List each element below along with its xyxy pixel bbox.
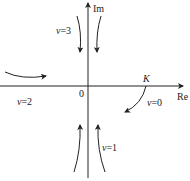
complex-plane-diagram: Im Re 0 K v=3 v=2 v=1 v=0 — [0, 0, 190, 181]
branch-v1-label: v=1 — [102, 143, 117, 153]
origin-label: 0 — [79, 89, 84, 99]
branch-v3-label: v=3 — [56, 26, 71, 36]
real-axis-label: Re — [177, 92, 188, 102]
point-k-label: K — [143, 74, 150, 84]
branch-v2-label: v=2 — [17, 97, 32, 107]
branch-v0-label: v=0 — [147, 98, 162, 108]
diagram-canvas — [0, 0, 190, 181]
branch-v2-arrow — [5, 72, 46, 77]
branch-v1-arrows — [74, 125, 105, 172]
branch-v0-arrow — [125, 86, 146, 112]
imag-axis-label: Im — [93, 4, 104, 14]
branch-v3-arrows — [77, 16, 101, 52]
